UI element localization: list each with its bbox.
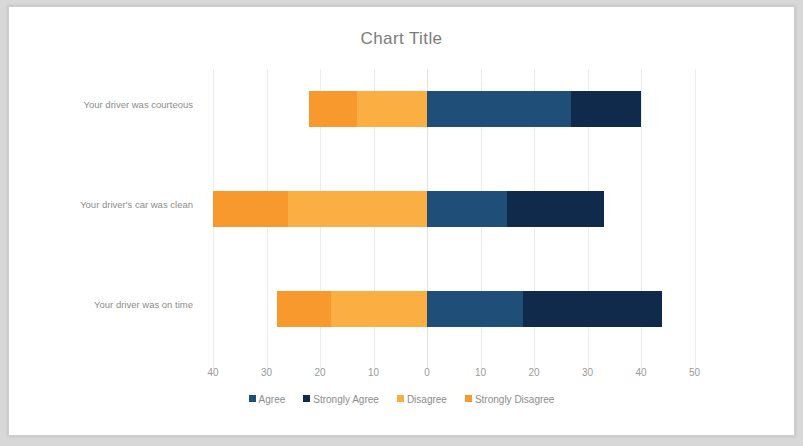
stacked-bar bbox=[19, 91, 784, 127]
bar-segment-strongly-agree[interactable] bbox=[571, 91, 641, 127]
bar-segment-strongly-disagree[interactable] bbox=[277, 291, 331, 327]
chart-category-row: Your driver was courteous bbox=[19, 69, 784, 169]
x-axis-tick-label: 10 bbox=[461, 367, 501, 378]
x-axis-tick-label: 50 bbox=[675, 367, 715, 378]
x-axis-tick-label: 30 bbox=[247, 367, 287, 378]
bar-segment-strongly-disagree[interactable] bbox=[213, 191, 288, 227]
bar-segment-agree[interactable] bbox=[427, 291, 523, 327]
x-axis-tick-label: 10 bbox=[354, 367, 394, 378]
legend-swatch-icon bbox=[303, 395, 310, 402]
chart-title: Chart Title bbox=[9, 29, 794, 49]
x-axis-tick-label: 0 bbox=[407, 367, 447, 378]
bar-segment-strongly-disagree[interactable] bbox=[309, 91, 357, 127]
chart-container: Chart Title Your driver was courteousYou… bbox=[8, 6, 795, 436]
legend-label: Disagree bbox=[407, 394, 447, 405]
x-axis-tick-label: 30 bbox=[568, 367, 608, 378]
legend-item[interactable]: Disagree bbox=[397, 393, 447, 405]
legend-label: Agree bbox=[259, 394, 286, 405]
chart-category-row: Your driver's car was clean bbox=[19, 169, 784, 269]
legend-item[interactable]: Strongly Agree bbox=[303, 393, 379, 405]
legend-item[interactable]: Agree bbox=[249, 393, 286, 405]
x-axis-tick-label: 40 bbox=[193, 367, 233, 378]
legend-swatch-icon bbox=[397, 395, 404, 402]
bar-segment-disagree[interactable] bbox=[357, 91, 427, 127]
plot-area: Your driver was courteousYour driver's c… bbox=[19, 69, 784, 369]
legend-swatch-icon bbox=[465, 395, 472, 402]
bar-segment-disagree[interactable] bbox=[288, 191, 427, 227]
stacked-bar bbox=[19, 291, 784, 327]
bar-segment-strongly-agree[interactable] bbox=[523, 291, 662, 327]
legend-item[interactable]: Strongly Disagree bbox=[465, 393, 554, 405]
bar-segment-disagree[interactable] bbox=[331, 291, 427, 327]
chart-category-row: Your driver was on time bbox=[19, 269, 784, 369]
stacked-bar bbox=[19, 191, 784, 227]
legend-swatch-icon bbox=[249, 395, 256, 402]
x-axis-tick-label: 40 bbox=[621, 367, 661, 378]
bar-segment-agree[interactable] bbox=[427, 91, 571, 127]
x-axis-tick-label: 20 bbox=[514, 367, 554, 378]
bar-segment-strongly-agree[interactable] bbox=[507, 191, 603, 227]
x-axis: 4030201001020304050 bbox=[19, 367, 784, 387]
chart-legend: AgreeStrongly AgreeDisagreeStrongly Disa… bbox=[9, 393, 794, 405]
legend-label: Strongly Agree bbox=[313, 394, 379, 405]
bar-segment-agree[interactable] bbox=[427, 191, 507, 227]
legend-label: Strongly Disagree bbox=[475, 394, 554, 405]
x-axis-tick-label: 20 bbox=[300, 367, 340, 378]
